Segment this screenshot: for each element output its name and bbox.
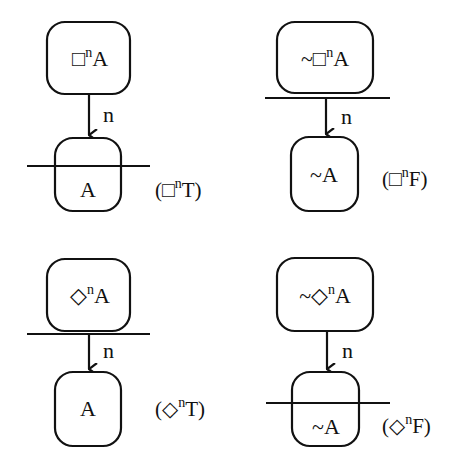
rule-box-n-true: □nA n A (□nT) bbox=[27, 22, 202, 211]
diamond-operator-icon: ◇ bbox=[70, 283, 87, 308]
conclusion-formula: ~A bbox=[312, 414, 340, 439]
edge-label: n bbox=[341, 104, 352, 129]
tableau-rules-diagram: □nA n A (□nT) ~□nA n ~A (□nF) ◇nA bbox=[0, 0, 474, 470]
conclusion-node: A bbox=[55, 372, 121, 446]
rule-box-n-false: ~□nA n ~A (□nF) bbox=[265, 22, 427, 211]
rule-diamond-n-true: ◇nA n A (◇nT) bbox=[27, 259, 205, 446]
diamond-operator-icon: ◇ bbox=[311, 283, 328, 308]
rule-name: (◇nT) bbox=[155, 395, 205, 421]
conclusion-node: ~A bbox=[291, 137, 358, 211]
rule-name: (□nT) bbox=[155, 176, 202, 202]
negation-icon: ~ bbox=[312, 414, 324, 439]
negation-icon: ~ bbox=[299, 283, 311, 308]
rule-name: (□nF) bbox=[382, 165, 427, 191]
rule-diamond-n-false: ~◇nA n ~A (◇nF) bbox=[266, 258, 431, 446]
box-operator-icon: □ bbox=[162, 178, 175, 202]
conclusion-formula: ~A bbox=[310, 162, 338, 187]
negation-icon: ~ bbox=[310, 162, 322, 187]
conclusion-node: A bbox=[55, 138, 121, 211]
edge-label: n bbox=[103, 102, 114, 127]
premise-formula: ~◇nA bbox=[299, 282, 351, 308]
conclusion-node: ~A bbox=[292, 372, 359, 446]
premise-node: ~◇nA bbox=[277, 258, 373, 331]
premise-formula: ~□nA bbox=[301, 45, 349, 71]
rule-name: (◇nF) bbox=[382, 412, 431, 438]
diamond-operator-icon: ◇ bbox=[389, 414, 406, 438]
box-operator-icon: □ bbox=[389, 167, 402, 191]
conclusion-formula: A bbox=[80, 177, 96, 202]
premise-node: □nA bbox=[47, 22, 130, 94]
conclusion-formula: A bbox=[80, 396, 96, 421]
box-operator-icon: □ bbox=[72, 46, 85, 71]
edge-label: n bbox=[342, 338, 353, 363]
box-operator-icon: □ bbox=[313, 46, 326, 71]
negation-icon: ~ bbox=[301, 46, 313, 71]
premise-node: ~□nA bbox=[277, 22, 373, 93]
diamond-operator-icon: ◇ bbox=[162, 397, 179, 421]
edge-label: n bbox=[103, 338, 114, 363]
premise-node: ◇nA bbox=[47, 259, 130, 331]
